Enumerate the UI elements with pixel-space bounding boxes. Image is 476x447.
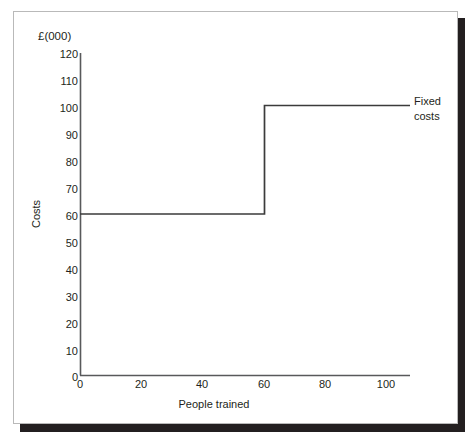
annotation-fixed-costs: Fixed costs bbox=[414, 94, 441, 124]
step-chart: £(000) Costs 120 110 100 90 80 70 60 50 … bbox=[14, 12, 459, 425]
figure-card: £(000) Costs 120 110 100 90 80 70 60 50 … bbox=[13, 11, 458, 424]
plot-canvas bbox=[14, 12, 459, 425]
series-fixed-costs bbox=[80, 106, 410, 215]
annotation-line-1: Fixed bbox=[414, 94, 441, 109]
annotation-line-2: costs bbox=[414, 109, 441, 124]
